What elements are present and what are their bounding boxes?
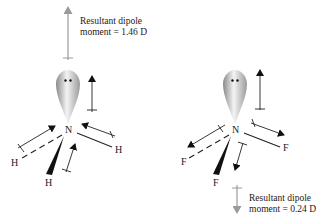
- nf3-right-f-label: F: [283, 143, 289, 153]
- nf3-resultant-arrow-icon: [232, 185, 242, 212]
- nf3-bottom-bond-dipole-arrow-icon: [235, 142, 247, 170]
- nh3-bottom-bond-dipole-arrow-icon: [62, 144, 75, 172]
- nh3-lone-pair-dipole-arrow-icon: [87, 76, 97, 112]
- diagram-graphics: [0, 0, 332, 224]
- nh3-left-bond-dipole-arrow-icon: [18, 126, 55, 152]
- nf3-lone-pair-dipole-arrow-icon: [255, 70, 265, 110]
- nf3-resultant-line2: moment = 0.24 D: [249, 204, 316, 215]
- nh3-lone-pair-lobe-icon: [56, 70, 80, 124]
- nh3-left-h-label: H: [11, 158, 18, 168]
- dipole-moment-diagram: Resultant dipole moment = 1.46 D N H H H…: [0, 0, 332, 224]
- nh3-central-atom-label: N: [65, 125, 72, 135]
- nh3-right-h-label: H: [115, 145, 122, 155]
- nf3-resultant-caption: Resultant dipole moment = 0.24 D: [249, 193, 316, 215]
- nf3-central-atom-label: N: [232, 125, 239, 135]
- nh3-right-bond-dipole-arrow-icon: [82, 124, 115, 138]
- nh3-resultant-caption: Resultant dipole moment = 1.46 D: [80, 16, 147, 38]
- nf3-bottom-f-label: F: [213, 178, 219, 188]
- nf3-bonds: [189, 133, 280, 175]
- nh3-resultant-line2: moment = 1.46 D: [80, 27, 147, 38]
- nf3-left-bond-dipole-arrow-icon: [188, 125, 225, 147]
- nh3-bottom-h-label: H: [45, 178, 52, 188]
- nf3-right-bond-dipole-arrow-icon: [251, 119, 284, 135]
- nf3-lone-pair-lobe-icon: [223, 70, 247, 124]
- nf3-molecule: [188, 70, 284, 212]
- nf3-resultant-line1: Resultant dipole: [249, 193, 316, 204]
- nh3-resultant-line1: Resultant dipole: [80, 16, 147, 27]
- nf3-left-f-label: F: [181, 157, 187, 167]
- nh3-resultant-arrow-icon: [63, 8, 73, 60]
